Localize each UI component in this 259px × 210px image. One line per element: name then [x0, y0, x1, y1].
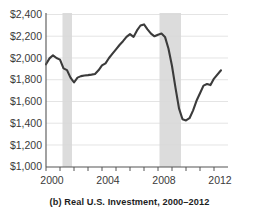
investment-line-chart: $2,400 $2,200 $2,000 $1,800 $1,600 $1,40… [0, 0, 259, 200]
ytick-label-2400: $2,400 [10, 8, 42, 20]
ytick-label-1200: $1,200 [10, 139, 42, 151]
ytick-label-1600: $1,600 [10, 95, 42, 107]
figure-caption: (b) Real U.S. Investment, 2000–2012 [0, 197, 259, 207]
ytick-label-2200: $2,200 [10, 30, 42, 42]
xtick-label-2000: 2000 [40, 174, 64, 186]
ytick-label-1400: $1,400 [10, 117, 42, 129]
figure-panel: $2,400 $2,200 $2,000 $1,800 $1,600 $1,40… [0, 0, 259, 210]
ytick-label-2000: $2,000 [10, 52, 42, 64]
xtick-label-2012: 2012 [208, 174, 232, 186]
xtick-label-2004: 2004 [96, 174, 120, 186]
ytick-label-1800: $1,800 [10, 73, 42, 85]
ytick-label-1000: $1,000 [10, 160, 42, 172]
xtick-label-2008: 2008 [152, 174, 176, 186]
